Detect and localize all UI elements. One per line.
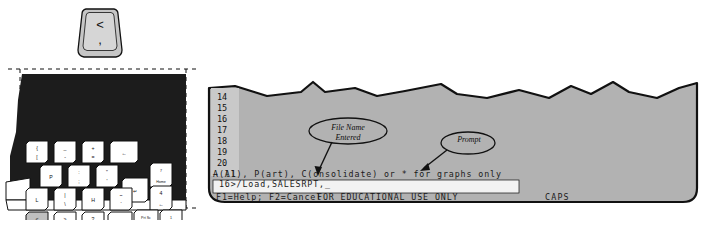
callout-filename-label: File NameEntered [311,123,385,142]
callout-prompt-label: Prompt [441,135,497,145]
callout-line: File Name [331,123,365,132]
annotation-layer [0,0,705,227]
callout-filename-arrowhead [315,166,323,176]
callout-line: Prompt [457,135,481,144]
callout-line: Entered [335,133,360,142]
